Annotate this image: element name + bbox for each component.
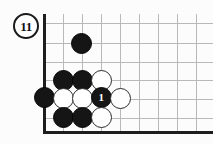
stone-black[interactable]	[53, 107, 74, 128]
stone-white[interactable]	[110, 88, 131, 109]
stone-black[interactable]	[72, 107, 93, 128]
grid-line-horizontal-0	[44, 23, 213, 24]
stone-black[interactable]	[71, 33, 92, 54]
grid-line-vertical-5	[158, 14, 159, 131]
board-left-edge	[43, 14, 46, 134]
board-bottom-edge	[43, 131, 213, 134]
stone-move-number: 1	[99, 92, 104, 103]
stone-white[interactable]	[91, 107, 112, 128]
grid-line-vertical-4	[139, 14, 140, 131]
stone-white[interactable]	[72, 88, 93, 109]
stone-black[interactable]	[34, 87, 55, 108]
stone-white[interactable]	[53, 88, 74, 109]
stone-black-move-1[interactable]: 1	[91, 87, 112, 108]
figure-number-label: 11	[20, 20, 31, 33]
grid-line-vertical-7	[196, 14, 197, 131]
figure-number-badge: 11	[13, 13, 39, 39]
diagram-root: 1 11	[0, 0, 213, 144]
grid-line-vertical-3	[120, 14, 121, 131]
grid-line-vertical-6	[177, 14, 178, 131]
grid-line-horizontal-1	[44, 43, 213, 44]
grid-line-horizontal-2	[44, 62, 213, 63]
